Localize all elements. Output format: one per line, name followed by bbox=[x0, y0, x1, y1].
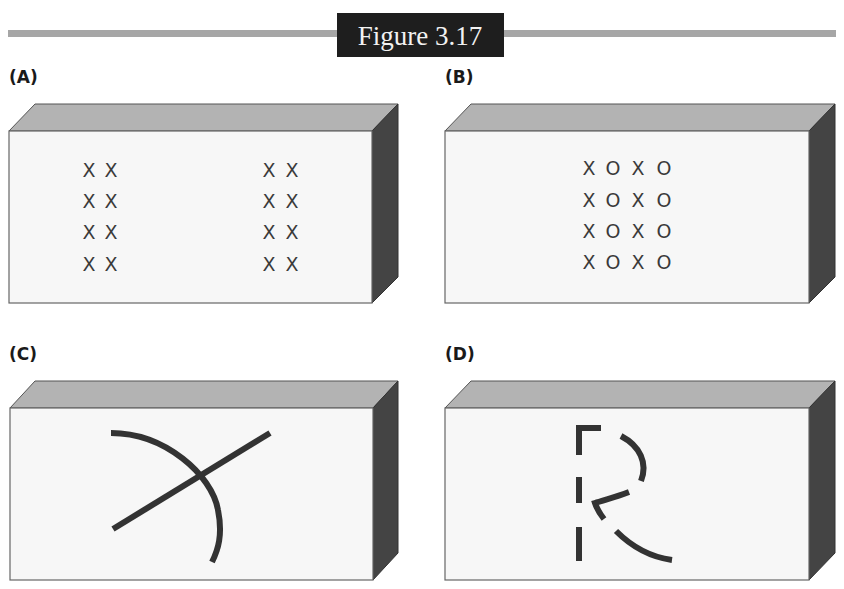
mark-x: X bbox=[82, 221, 95, 243]
mark-x: X bbox=[582, 157, 595, 179]
figure-header: Figure 3.17 bbox=[8, 13, 836, 57]
mark-x: X bbox=[262, 190, 275, 212]
box-top-face bbox=[10, 381, 398, 408]
panel-a: (A) X X X X X X X X X X X X X X X X bbox=[9, 67, 398, 303]
box-side-face bbox=[373, 381, 398, 580]
mark-x: X bbox=[104, 253, 117, 275]
panel-label-d: (D) bbox=[445, 344, 475, 364]
mark-x: X bbox=[262, 159, 275, 181]
panel-c: (C) bbox=[9, 344, 398, 580]
mark-x: X bbox=[285, 221, 298, 243]
box-top-face bbox=[445, 104, 835, 131]
mark-o: O bbox=[606, 251, 621, 273]
box-side-face bbox=[809, 104, 835, 303]
mark-x: X bbox=[262, 253, 275, 275]
mark-x: X bbox=[582, 189, 595, 211]
box-front-face bbox=[445, 131, 809, 303]
panel-d: (D) bbox=[445, 344, 835, 580]
mark-x: X bbox=[631, 157, 644, 179]
box-side-face bbox=[372, 104, 398, 303]
box-a bbox=[9, 104, 398, 303]
mark-o: O bbox=[606, 220, 621, 242]
figure-3-17: Figure 3.17 (A) X X X X X X X X X X X X … bbox=[0, 0, 844, 589]
mark-x: X bbox=[262, 221, 275, 243]
mark-x: X bbox=[82, 159, 95, 181]
mark-x: X bbox=[582, 220, 595, 242]
mark-o: O bbox=[657, 220, 672, 242]
mark-x: X bbox=[285, 159, 298, 181]
mark-o: O bbox=[606, 189, 621, 211]
box-top-face bbox=[445, 381, 835, 408]
panel-label-c: (C) bbox=[9, 344, 37, 364]
mark-x: X bbox=[631, 251, 644, 273]
panel-label-b: (B) bbox=[445, 67, 474, 87]
mark-x: X bbox=[285, 253, 298, 275]
mark-x: X bbox=[582, 251, 595, 273]
mark-o: O bbox=[657, 157, 672, 179]
mark-x: X bbox=[631, 220, 644, 242]
mark-x: X bbox=[104, 221, 117, 243]
box-top-face bbox=[9, 104, 398, 131]
figure-title: Figure 3.17 bbox=[358, 21, 483, 51]
mark-o: O bbox=[657, 189, 672, 211]
title-rule-right bbox=[503, 30, 836, 37]
mark-x: X bbox=[104, 159, 117, 181]
title-rule-left bbox=[8, 30, 338, 37]
mark-x: X bbox=[104, 190, 117, 212]
box-side-face bbox=[809, 381, 835, 580]
mark-o: O bbox=[657, 251, 672, 273]
panel-label-a: (A) bbox=[9, 67, 38, 87]
mark-x: X bbox=[285, 190, 298, 212]
mark-x: X bbox=[631, 189, 644, 211]
mark-x: X bbox=[82, 190, 95, 212]
panel-b: (B) X O X O X O X O X O X O X O X O bbox=[445, 67, 835, 303]
mark-x: X bbox=[82, 253, 95, 275]
box-front-face bbox=[10, 408, 373, 580]
box-front-face bbox=[9, 131, 372, 303]
mark-o: O bbox=[606, 157, 621, 179]
